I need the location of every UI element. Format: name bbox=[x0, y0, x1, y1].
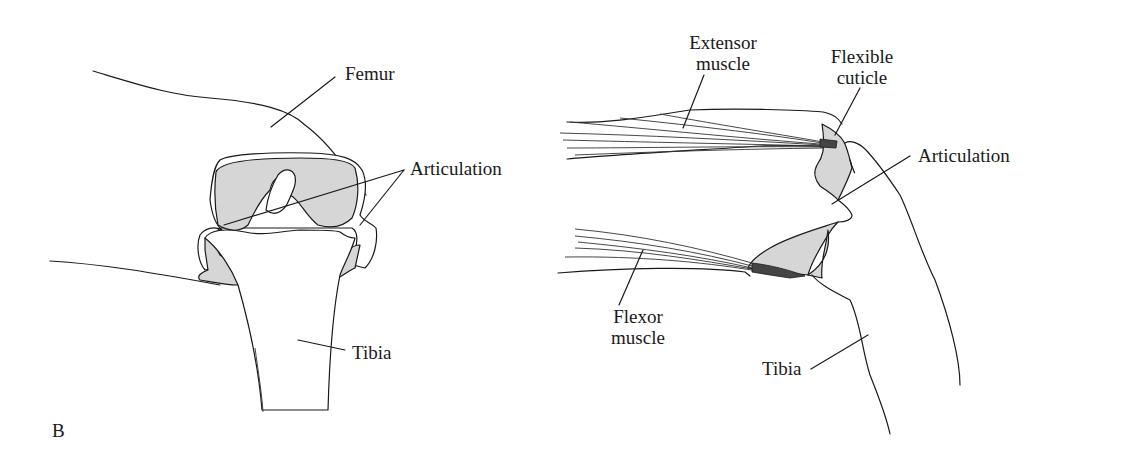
articulation-notch bbox=[838, 200, 852, 222]
femur-lower-edge bbox=[558, 268, 750, 276]
panel-letter: B bbox=[52, 420, 65, 441]
tibia-leader-right bbox=[811, 335, 868, 369]
tibia-outer-edge bbox=[845, 142, 960, 385]
flexible-cuticle-upper bbox=[815, 124, 852, 200]
label-extensor-line2: muscle bbox=[678, 53, 768, 74]
flexor-muscle-fibers bbox=[565, 229, 752, 270]
articulation-leader-2 bbox=[360, 170, 404, 225]
label-femur: Femur bbox=[345, 63, 395, 84]
label-extensor-muscle: Extensor muscle bbox=[678, 32, 768, 74]
right-joint-side-view bbox=[558, 75, 960, 434]
femur-outline-lower bbox=[50, 261, 220, 285]
label-flexible-line1: Flexible bbox=[822, 46, 902, 67]
label-articulation-left: Articulation bbox=[410, 158, 502, 179]
extensor-muscle-fibers bbox=[560, 114, 826, 155]
left-joint-section bbox=[50, 71, 404, 412]
label-extensor-line1: Extensor bbox=[678, 32, 768, 53]
tibia-head bbox=[205, 230, 355, 410]
label-flexor-muscle: Flexor muscle bbox=[603, 306, 673, 348]
label-tibia-right: Tibia bbox=[762, 358, 801, 379]
tibia-inner-edge bbox=[812, 275, 890, 434]
femur-leader-line bbox=[271, 77, 335, 127]
joint-diagram-figure: Femur Articulation Tibia B Extensor musc… bbox=[0, 0, 1123, 461]
label-flexible-cuticle: Flexible cuticle bbox=[822, 46, 902, 88]
label-articulation-right: Articulation bbox=[918, 145, 1010, 166]
label-flexor-line1: Flexor bbox=[603, 306, 673, 327]
label-tibia-left: Tibia bbox=[352, 342, 391, 363]
label-flexible-line2: cuticle bbox=[822, 67, 902, 88]
extensor-tendon bbox=[820, 139, 837, 148]
flexible-cuticle-leader-line bbox=[835, 88, 860, 135]
diagram-drawing bbox=[0, 0, 1123, 461]
label-flexor-line2: muscle bbox=[603, 327, 673, 348]
